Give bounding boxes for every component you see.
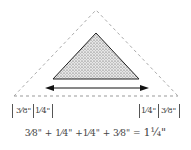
left-label-inner: 1⁄4"	[35, 106, 50, 116]
right-inner-bar	[139, 104, 140, 118]
right-divider-bar	[158, 104, 159, 118]
left-divider-bar	[33, 104, 34, 118]
left-label-outer: 3⁄8"	[16, 106, 31, 116]
inner-stippled-triangle	[53, 33, 139, 79]
equation-terms: 3⁄8" + 1⁄4" +1⁄4" + 3⁄8" =	[25, 128, 141, 138]
right-label-inner: 1⁄4"	[141, 106, 156, 116]
left-inner-bar	[52, 104, 53, 118]
right-edge-bar	[179, 104, 180, 118]
double-arrow-icon	[45, 85, 149, 91]
sum-equation: 3⁄8" + 1⁄4" +1⁄4" + 3⁄8" = 1¼"	[0, 126, 191, 139]
equation-result: 1¼"	[143, 126, 166, 139]
left-edge-bar	[12, 104, 13, 118]
right-label-outer: 3⁄8"	[161, 106, 176, 116]
